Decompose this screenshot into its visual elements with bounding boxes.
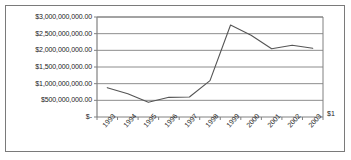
y-axis-tick-label: $1,500,000,000.00 xyxy=(6,63,92,71)
y-axis-tick-label: $- xyxy=(6,113,92,121)
y-axis-tick-label: $2,500,000,000.00 xyxy=(6,30,92,38)
y-axis-tick-label: $2,000,000,000.00 xyxy=(6,46,92,54)
y-axis-tick-label: $3,000,000,000.00 xyxy=(6,13,92,21)
corner-axis-label: $1 xyxy=(327,110,335,118)
y-axis-tick-label: $1,000,000,000.00 xyxy=(6,80,92,88)
data-series-line xyxy=(107,25,312,102)
gridlines xyxy=(97,17,323,100)
y-axis-tick-label: $500,000,000.00 xyxy=(6,96,92,104)
